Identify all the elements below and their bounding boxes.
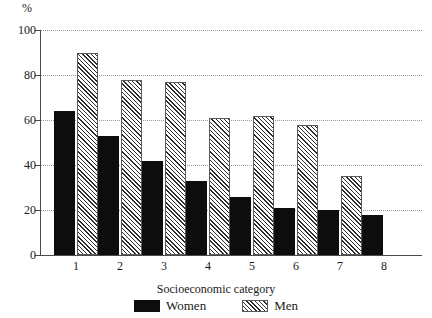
bar-women bbox=[186, 181, 207, 255]
y-tick-label: 20 bbox=[24, 204, 36, 216]
solid-black-swatch bbox=[134, 300, 160, 312]
bar-women bbox=[230, 197, 251, 256]
x-tick-label: 2 bbox=[98, 259, 142, 273]
x-axis-line bbox=[40, 255, 422, 256]
bar-group bbox=[54, 30, 98, 255]
x-tick-label: 4 bbox=[186, 259, 230, 273]
y-tick-label: 0 bbox=[30, 249, 36, 261]
x-tick-label: 7 bbox=[318, 259, 362, 273]
bar-men bbox=[121, 80, 142, 256]
bar-group bbox=[318, 30, 362, 255]
bar-group bbox=[230, 30, 274, 255]
legend-label: Men bbox=[274, 299, 298, 313]
bar-men bbox=[77, 53, 98, 256]
bar-chart-figure: % 020406080100 12345678 Socioeconomic ca… bbox=[0, 0, 432, 318]
legend-item: Women bbox=[134, 299, 206, 313]
x-tick-label: 8 bbox=[362, 259, 406, 273]
x-tick-label: 1 bbox=[54, 259, 98, 273]
y-tick-label: 60 bbox=[24, 114, 36, 126]
y-axis-unit-label: % bbox=[22, 2, 32, 14]
bar-men bbox=[209, 118, 230, 255]
hatched-swatch bbox=[242, 300, 268, 312]
bar-women bbox=[142, 161, 163, 256]
bar-men bbox=[341, 176, 362, 255]
bar-group bbox=[142, 30, 186, 255]
y-tick-label: 100 bbox=[18, 24, 36, 36]
bar-women bbox=[98, 136, 119, 255]
y-tick-label: 80 bbox=[24, 69, 36, 81]
bar-group bbox=[98, 30, 142, 255]
bar-men bbox=[253, 116, 274, 256]
bar-men bbox=[297, 125, 318, 256]
bar-group bbox=[186, 30, 230, 255]
bar-women bbox=[318, 210, 339, 255]
bar-women bbox=[54, 111, 75, 255]
x-axis-title: Socioeconomic category bbox=[0, 282, 432, 296]
chart-legend: WomenMen bbox=[0, 299, 432, 313]
legend-item: Men bbox=[242, 299, 298, 313]
bar-group bbox=[274, 30, 318, 255]
x-tick-label: 6 bbox=[274, 259, 318, 273]
y-tick-label: 40 bbox=[24, 159, 36, 171]
bar-women bbox=[362, 215, 383, 256]
legend-label: Women bbox=[166, 299, 206, 313]
x-tick-label: 3 bbox=[142, 259, 186, 273]
x-tick-label: 5 bbox=[230, 259, 274, 273]
plot-area: 020406080100 12345678 bbox=[40, 30, 422, 255]
bar-men bbox=[165, 82, 186, 255]
bar-group bbox=[362, 30, 406, 255]
bar-women bbox=[274, 208, 295, 255]
y-axis-line bbox=[40, 30, 41, 256]
